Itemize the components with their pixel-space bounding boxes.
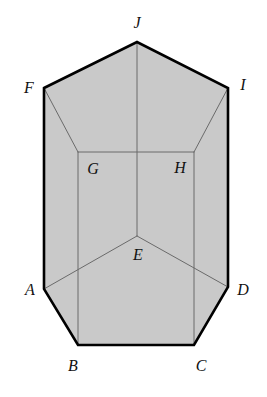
- vertex-label-F: F: [24, 80, 34, 96]
- prism-body-fill: [44, 42, 228, 345]
- vertex-label-H: H: [174, 160, 186, 176]
- vertex-label-J: J: [133, 15, 140, 31]
- prism-svg: [0, 0, 267, 397]
- vertex-label-C: C: [196, 358, 207, 374]
- vertex-label-B: B: [68, 358, 78, 374]
- pentagonal-prism-figure: A B C D E F G H I J: [0, 0, 267, 397]
- vertex-label-G: G: [87, 161, 99, 177]
- vertex-label-D: D: [237, 282, 249, 298]
- vertex-label-I: I: [240, 77, 245, 93]
- vertex-label-E: E: [133, 247, 143, 263]
- vertex-label-A: A: [25, 282, 35, 298]
